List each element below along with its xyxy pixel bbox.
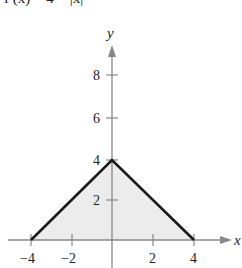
y-tick-label: 6 [93, 111, 100, 126]
x-axis-arrow-icon [220, 236, 232, 244]
x-tick-label: −4 [20, 251, 35, 266]
x-tick-label: 2 [149, 251, 156, 266]
chart-title: f (x) = 4 − |x| [4, 0, 83, 7]
y-tick-label: 2 [93, 193, 100, 208]
x-tick-label: 4 [190, 251, 197, 266]
chart: f (x) = 4 − |x| x y −4 −2 2 4 2 4 6 8 [0, 0, 242, 268]
y-axis-label: y [105, 25, 114, 41]
y-tick-label: 8 [93, 68, 100, 83]
y-tick-label: 4 [93, 153, 100, 168]
y-axis-arrow-icon [108, 45, 116, 57]
x-axis-label: x [233, 232, 241, 248]
x-tick-label: −2 [61, 251, 76, 266]
